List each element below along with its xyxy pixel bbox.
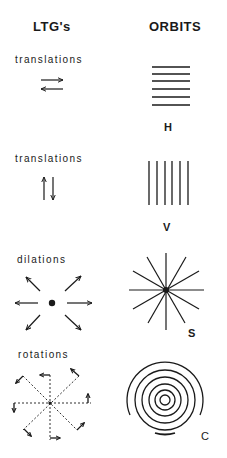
diagram-canvas xyxy=(0,0,227,458)
vertical-opposing-arrows-icon xyxy=(44,177,53,200)
concentric-circles xyxy=(127,362,203,434)
radial-outward-arrows-icon xyxy=(15,276,92,330)
vertical-parallel-lines xyxy=(149,161,188,205)
dashed-rotation-field-icon xyxy=(14,369,91,440)
horizontal-parallel-lines xyxy=(152,67,190,105)
horizontal-opposing-arrows-icon xyxy=(41,80,63,89)
center-dot xyxy=(49,300,55,306)
star-radial-lines xyxy=(129,253,204,330)
